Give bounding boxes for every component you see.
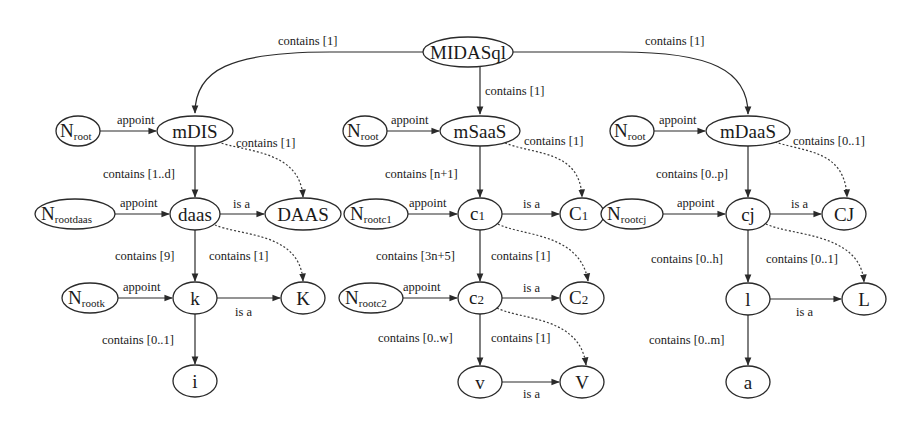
node-label-sub: root <box>74 130 92 142</box>
node-k: k <box>173 282 217 314</box>
node-CJ: CJ <box>822 198 866 230</box>
node-label-sub: 2 <box>477 292 484 307</box>
node-label-c: c <box>470 203 478 224</box>
node-label-sub: rootc1 <box>364 213 392 225</box>
edge-label-c2-V: contains [1] <box>491 331 550 345</box>
edge-label-nrootcj-cj: appoint <box>677 196 715 210</box>
node-K: K <box>281 282 325 314</box>
node-label-mdis: mDIS <box>172 121 217 142</box>
node-label-sub: 2 <box>582 292 589 307</box>
node-label-i: i <box>192 371 197 392</box>
edge-label-c1-c2: contains [3n+5] <box>376 249 455 263</box>
edge-midasql-mdis <box>195 52 423 113</box>
node-mdaas: mDaaS <box>706 116 790 146</box>
edge-label-k-i: contains [0..1] <box>102 333 174 347</box>
edge-label-midasql-mdis: contains [1] <box>278 34 337 48</box>
edge-label-msaas-C1: contains [1] <box>524 134 583 148</box>
node-label-sub: 1 <box>582 208 589 223</box>
edge-label-c1-C2: contains [1] <box>491 249 550 263</box>
edge-label-c2-C2: is a <box>523 281 540 295</box>
node-l: l <box>726 283 770 315</box>
node-L: L <box>842 283 886 315</box>
node-c1: c1 <box>458 198 502 230</box>
node-label-n: N <box>68 287 82 308</box>
node-label-sub: rootk <box>82 297 106 309</box>
node-label-DAAS: DAAS <box>277 204 329 225</box>
node-label-K: K <box>296 288 310 309</box>
node-midasql: MIDASql <box>423 37 513 67</box>
node-label-n: N <box>347 120 361 141</box>
node-label-msaas: mSaaS <box>454 121 507 142</box>
node-C2: C2 <box>560 282 604 314</box>
node-nroot-mdis: Nroot <box>56 116 100 146</box>
node-msaas: mSaaS <box>440 116 520 146</box>
edge-label-cj-L: contains [0..1] <box>766 252 838 266</box>
node-mdis: mDIS <box>157 116 233 146</box>
node-label-sub: rootdaas <box>55 213 92 225</box>
node-label-C: C <box>569 287 582 308</box>
node-label-sub: 1 <box>478 208 485 223</box>
node-label-n: N <box>614 120 628 141</box>
node-label-sub: rootcj <box>621 213 647 225</box>
node-label-sub: root <box>628 130 646 142</box>
edge-label-cj-CJ: is a <box>791 197 808 211</box>
node-label-midasql: MIDASql <box>430 42 506 63</box>
node-V: V <box>560 366 604 398</box>
edge-label-nrootc1-c1: appoint <box>409 196 447 210</box>
node-nrootcj: Nrootcj <box>601 199 663 229</box>
node-label-n: N <box>60 120 74 141</box>
edge-label-midasql-msaas: contains [1] <box>485 84 544 98</box>
node-label-V: V <box>575 372 589 393</box>
node-label-daas: daas <box>178 204 212 225</box>
edge-label-l-a: contains [0..m] <box>649 333 724 347</box>
node-label-mdaas: mDaaS <box>720 121 776 142</box>
edge-label-nrootc2-c2: appoint <box>403 280 441 294</box>
node-label-n: N <box>345 287 359 308</box>
edge-label-daas-DAAS: is a <box>233 197 250 211</box>
node-label-v: v <box>475 372 485 393</box>
edge-label-c2-v: contains [0..w] <box>378 331 453 345</box>
node-nroot-msaas: Nroot <box>343 116 387 146</box>
edge-label-mdis-DAAS: contains [1] <box>236 136 295 150</box>
node-label-k: k <box>190 288 200 309</box>
node-nroot-mdaas: Nroot <box>610 116 654 146</box>
node-label-l: l <box>745 289 750 310</box>
edge-msaas-C1 <box>505 143 582 197</box>
edge-label-v-V: is a <box>523 387 540 401</box>
node-v: v <box>458 366 502 398</box>
node-cj: cj <box>726 198 770 230</box>
edge-label-midasql-mdaas: contains [1] <box>645 34 704 48</box>
edge-label-cj-l: contains [0..h] <box>651 252 723 266</box>
node-DAAS: DAAS <box>265 198 341 230</box>
node-c2: c2 <box>458 282 502 314</box>
hierarchy-diagram: contains [1] contains [1] contains [1] a… <box>0 0 920 425</box>
edge-midasql-mdaas <box>513 52 748 114</box>
node-nrootc2: Nrootc2 <box>339 283 403 313</box>
edge-label-mdis-daas: contains [1..d] <box>103 167 175 181</box>
node-label-a: a <box>744 372 753 393</box>
node-i: i <box>173 365 217 397</box>
node-C1: C1 <box>560 198 604 230</box>
edge-label-nrootdaas-daas: appoint <box>120 196 158 210</box>
node-label-sub: rootc2 <box>359 297 387 309</box>
edge-label-daas-K: contains [1] <box>209 249 268 263</box>
edge-label-l-L: is a <box>796 305 813 319</box>
edge-label-mdaas-cj: contains [0..p] <box>656 167 728 181</box>
edge-label-c1-C1: is a <box>523 197 540 211</box>
edge-label-mdaas-CJ: contains [0..1] <box>793 134 865 148</box>
node-nrootdaas: Nrootdaas <box>35 199 115 229</box>
edge-mdis-DAAS <box>218 142 303 197</box>
node-label-n: N <box>350 203 364 224</box>
node-label-sub: root <box>361 130 379 142</box>
node-nrootc1: Nrootc1 <box>344 199 408 229</box>
node-label-n: N <box>41 203 55 224</box>
node-a: a <box>726 366 770 398</box>
edge-mdaas-CJ <box>775 142 847 197</box>
edge-label-msaas-c1: contains [n+1] <box>385 167 458 181</box>
node-label-L: L <box>858 289 870 310</box>
node-label-C: C <box>569 203 582 224</box>
edge-label-daas-k: contains [9] <box>115 249 174 263</box>
node-nrootk: Nrootk <box>62 283 118 313</box>
edge-label-nroot-mdis: appoint <box>117 113 155 127</box>
node-label-c: c <box>469 287 477 308</box>
